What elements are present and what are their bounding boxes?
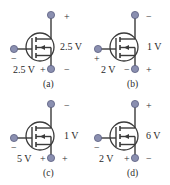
gate-terminal [10,134,17,141]
gate-sign-b: + [94,53,100,64]
drain-terminal [47,100,54,107]
mosfet-diagram: + 2.5 V − 2.5 V + − (a) − 1 V + 2 V − + … [0,0,170,185]
drain-sign-a: + [64,11,70,22]
drain-terminal [47,11,54,18]
gate-sign-d: − [94,142,100,153]
caption-d: (d) [127,168,138,179]
source-sign-left-d: + [124,153,130,164]
drain-terminal [131,100,138,107]
source-terminal [47,65,54,72]
nmos-transistor-icon [14,15,54,69]
source-terminal [47,154,54,161]
source-sign-right-c: + [62,153,68,164]
vds-label-a: 2.5 V [60,41,83,52]
gate-sign-c: − [11,142,17,153]
gate-terminal [94,134,101,141]
caption-a: (a) [43,79,54,90]
source-sign-left-c: + [40,153,46,164]
source-sign-right-d: − [146,153,152,164]
vgs-label-c: 5 V [17,153,32,164]
vgs-label-d: 2 V [99,153,114,164]
vds-label-c: 1 V [64,130,79,141]
gate-sign-a: − [11,53,17,64]
source-terminal [131,154,138,161]
caption-b: (b) [127,79,138,90]
vds-label-d: 6 V [146,130,161,141]
source-sign-right-a: − [64,64,70,75]
nmos-transistor-icon [14,104,54,158]
source-sign-left-a: + [40,64,46,75]
drain-terminal [131,11,138,18]
nmos-transistor-icon [98,104,138,158]
vgs-label-a: 2.5 V [13,64,36,75]
source-terminal [131,65,138,72]
drain-sign-d: + [146,100,152,111]
vgs-label-b: 2 V [101,64,116,75]
gate-terminal [10,45,17,52]
caption-c: (c) [43,168,54,179]
drain-sign-b: − [146,11,152,22]
gate-terminal [94,45,101,52]
vds-label-b: 1 V [147,41,162,52]
nmos-transistor-icon [98,15,138,69]
drain-sign-c: − [64,100,70,111]
source-sign-left-b: − [124,64,130,75]
source-sign-right-b: + [146,64,152,75]
